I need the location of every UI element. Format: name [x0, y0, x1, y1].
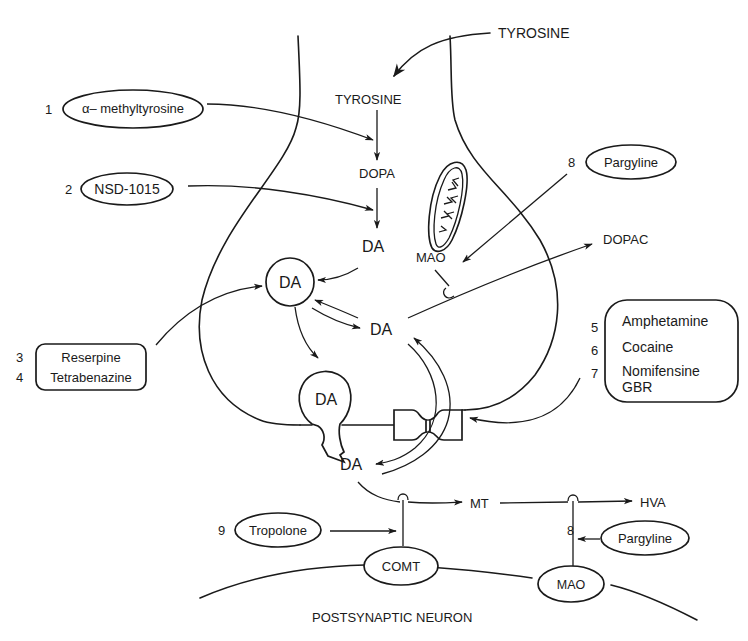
drug-1-label: α– methyltyrosine — [82, 101, 184, 116]
vesicle-da-label: DA — [279, 274, 302, 291]
comt-label: COMT — [382, 559, 420, 574]
drug-6-label: Cocaine — [622, 339, 674, 355]
drug-8-label-postsynaptic: Pargyline — [618, 531, 672, 546]
dopamine-synapse-diagram: TYROSINE TYROSINE DOPA DA 1 α– methyltyr… — [0, 0, 748, 641]
dopamine-transporter — [394, 410, 462, 440]
releasing-vesicle — [299, 371, 351, 462]
cytoplasmic-da-label: DA — [362, 238, 385, 255]
extracellular-tyrosine-label: TYROSINE — [498, 25, 570, 41]
intracellular-tyrosine-label: TYROSINE — [335, 92, 402, 107]
drug-2-label: NSD-1015 — [94, 181, 160, 197]
postsynaptic-membrane — [200, 565, 365, 598]
drug-2-number: 2 — [65, 182, 72, 197]
mitochondrion-icon — [429, 162, 467, 251]
releasing-vesicle-da-label: DA — [315, 391, 338, 408]
drug-4-number: 4 — [16, 370, 23, 385]
drug-9-number: 9 — [218, 523, 225, 538]
drug-7b-label: GBR — [622, 379, 652, 395]
drug-9-label: Tropolone — [249, 523, 307, 538]
drug-6-number: 6 — [591, 343, 598, 358]
drug-8-number-presynaptic: 8 — [568, 155, 575, 170]
drug-4-label: Tetrabenazine — [50, 370, 132, 385]
drug-8-label-presynaptic: Pargyline — [604, 155, 658, 170]
drug-5-label: Amphetamine — [622, 313, 709, 329]
dopac-label: DOPAC — [603, 232, 648, 247]
presynaptic-membrane-right — [450, 36, 558, 410]
dopa-label: DOPA — [359, 166, 395, 181]
mt-label: MT — [470, 496, 489, 511]
postsynaptic-neuron-label: POSTSYNAPTIC NEURON — [312, 610, 472, 625]
drug-8-number-postsynaptic: 8 — [567, 524, 574, 538]
synaptic-da-label: DA — [340, 456, 363, 473]
postsynaptic-mao-label: MAO — [557, 578, 586, 592]
drug-7a-label: Nomifensine — [622, 363, 700, 379]
drug-7-number: 7 — [591, 366, 598, 381]
drug-1-number: 1 — [45, 102, 52, 117]
free-da-label: DA — [370, 321, 393, 338]
drug-5-number: 5 — [591, 320, 598, 335]
hva-label: HVA — [640, 495, 666, 510]
mitochondrial-mao-label: MAO — [416, 250, 446, 265]
drug-3-number: 3 — [16, 350, 23, 365]
presynaptic-membrane — [199, 36, 300, 425]
drug-3-label: Reserpine — [61, 350, 120, 365]
